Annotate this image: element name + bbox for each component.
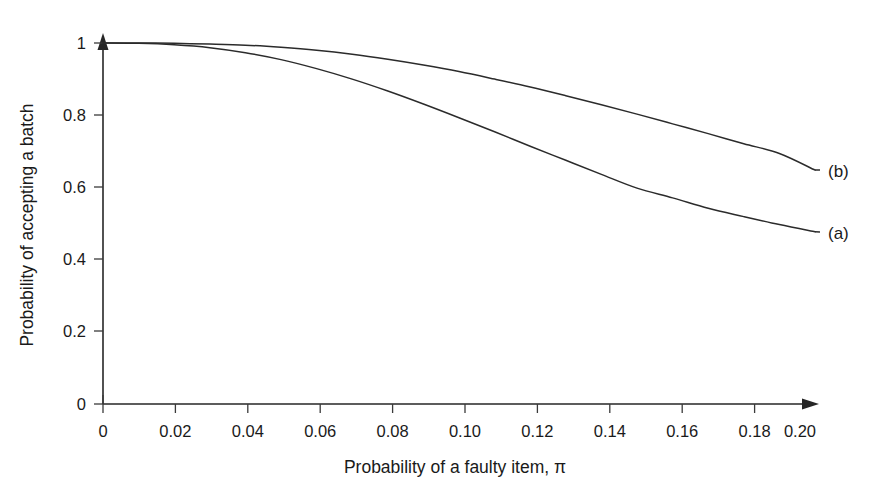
x-tick-label-0-04: 0.04: [232, 422, 264, 440]
x-tick-label-0-08: 0.08: [377, 422, 409, 440]
y-tick-label-0-4: 0.4: [63, 250, 86, 268]
y-tick-label-0: 0: [77, 395, 86, 413]
x-tick-label-0-02: 0.02: [159, 422, 191, 440]
y-tick-label-0-2: 0.2: [63, 322, 86, 340]
y-axis-title: Probability of accepting a batch: [17, 103, 37, 346]
x-tick-label-0-20: 0.20: [784, 422, 816, 440]
curve-label-b: (b): [828, 162, 849, 181]
x-tick-label-0-12: 0.12: [521, 422, 553, 440]
y-tick-label-0-8: 0.8: [63, 106, 86, 124]
y-tick-label-0-6: 0.6: [63, 178, 86, 196]
x-tick-label-0-16: 0.16: [666, 422, 698, 440]
x-tick-label-0: 0: [98, 422, 107, 440]
x-tick-label-0-18: 0.18: [739, 422, 771, 440]
x-tick-label-0-10: 0.10: [449, 422, 481, 440]
chart-figure: 1 0.8 0.6 0.4 0.2 0 Probability of accep…: [0, 0, 872, 497]
y-tick-label-1: 1: [77, 34, 86, 52]
curve-label-a: (a): [828, 224, 849, 243]
chart-svg: 1 0.8 0.6 0.4 0.2 0 Probability of accep…: [0, 0, 872, 497]
x-tick-label-0-06: 0.06: [304, 422, 336, 440]
x-tick-label-0-14: 0.14: [594, 422, 626, 440]
x-axis-title: Probability of a faulty item, π: [344, 457, 566, 477]
